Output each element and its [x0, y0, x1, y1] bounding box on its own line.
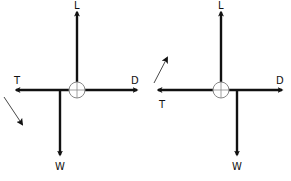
motion-arrow-icon [154, 58, 167, 83]
center-of-gravity-icon [213, 82, 229, 98]
label-thrust: T [158, 99, 166, 110]
label-drag: D [276, 75, 284, 86]
label-lift: L [74, 0, 80, 11]
label-thrust: T [13, 75, 21, 86]
force-diagram-left: L T D W [4, 0, 139, 172]
label-weight: W [55, 161, 65, 172]
label-drag: D [131, 75, 139, 86]
motion-arrow-icon [4, 97, 22, 124]
center-of-gravity-icon [69, 82, 85, 98]
force-diagram-right: L T D W [154, 0, 284, 172]
label-lift: L [218, 0, 224, 11]
diagram-canvas: L T D W L T D W [0, 0, 291, 181]
label-weight: W [232, 161, 242, 172]
